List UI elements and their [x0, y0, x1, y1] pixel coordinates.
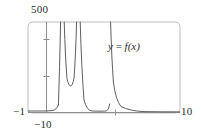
plot-canvas [0, 0, 201, 139]
function-annotation-label: y = f(x) [108, 40, 140, 52]
y-axis-max-label: 500 [31, 4, 48, 15]
y-axis-min-label: −1 [13, 106, 25, 117]
curve-branch-right-decay [111, 22, 180, 112]
curve-branch-middle-baseline [80, 22, 109, 111]
function-equals-sign: = [113, 40, 125, 52]
graph-figure: 500 −1 −10 10 y = f(x) [0, 0, 201, 139]
x-axis-max-label: 10 [181, 106, 192, 117]
curve-branch-left-baseline [28, 105, 58, 111]
curve-branch-valley [64, 22, 76, 86]
function-expression: f(x) [125, 40, 140, 52]
x-axis-min-label: −10 [34, 119, 52, 130]
curve-branch-asymptote-one [58, 22, 60, 105]
plot-frame [28, 22, 180, 113]
